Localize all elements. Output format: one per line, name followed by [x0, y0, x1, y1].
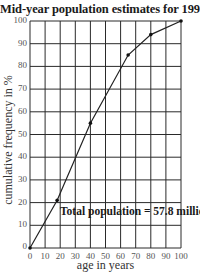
- data-point-marker: [126, 53, 130, 57]
- data-point-marker: [179, 19, 183, 23]
- y-axis-label: cumulative frequency in %: [1, 65, 15, 215]
- y-tick-label: 20: [18, 197, 28, 207]
- y-tick-label: 60: [18, 106, 28, 116]
- y-tick-label: 0: [23, 241, 28, 251]
- data-point-marker: [89, 121, 93, 125]
- y-tick-label: 100: [14, 15, 28, 25]
- cumulative-frequency-chart: 0102030405060708090100 01020304050607080…: [0, 0, 200, 273]
- data-point-marker: [28, 246, 32, 250]
- y-tick-label: 40: [18, 151, 28, 161]
- y-tick-label: 70: [18, 83, 28, 93]
- y-tick-label: 80: [18, 60, 28, 70]
- data-point-marker: [55, 199, 59, 203]
- y-tick-label: 50: [18, 129, 28, 139]
- y-axis-ticks: 0102030405060708090100: [14, 15, 28, 251]
- y-tick-label: 10: [18, 219, 28, 229]
- total-population-annotation: Total population = 57.8 million: [60, 204, 200, 218]
- x-axis-label: age in years: [30, 259, 181, 272]
- y-tick-label: 30: [18, 174, 28, 184]
- y-tick-label: 90: [18, 38, 28, 48]
- data-point-marker: [149, 33, 153, 37]
